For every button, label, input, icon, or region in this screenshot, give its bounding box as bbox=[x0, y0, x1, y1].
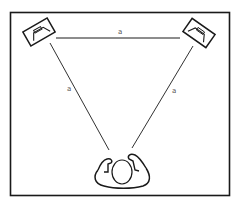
left-speaker-icon bbox=[23, 18, 55, 46]
left-side-line bbox=[50, 43, 109, 150]
listener-icon bbox=[95, 154, 149, 188]
top-side-label: a bbox=[118, 28, 122, 36]
right-side-label: a bbox=[172, 87, 176, 95]
right-speaker-icon bbox=[183, 18, 215, 47]
left-side-label: a bbox=[67, 85, 71, 93]
listening-triangle-diagram: a a a bbox=[0, 0, 235, 199]
right-side-line bbox=[132, 46, 193, 148]
